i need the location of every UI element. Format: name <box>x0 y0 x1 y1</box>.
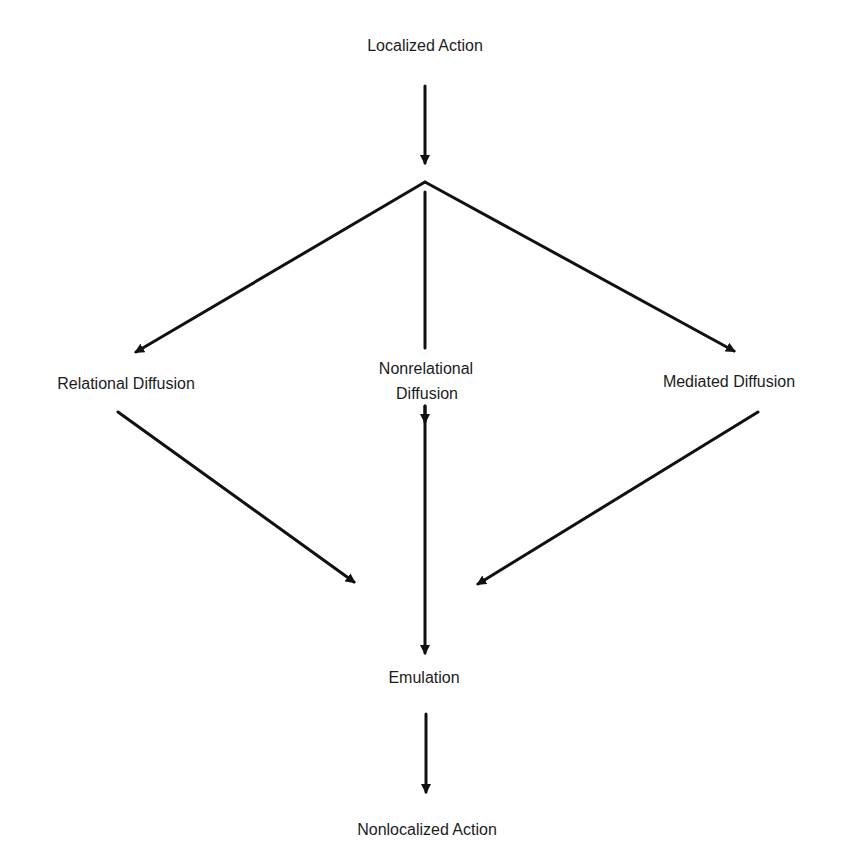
arrow-relational-to-emulation <box>118 412 354 582</box>
node-nonlocalized-action: Nonlocalized Action <box>357 820 497 839</box>
arrows-layer <box>0 0 843 854</box>
arrow-mediated-to-emulation <box>478 412 758 584</box>
node-mediated-diffusion: Mediated Diffusion <box>663 372 795 391</box>
node-emulation: Emulation <box>388 668 459 687</box>
arrow-branch-to-mediated <box>425 182 734 351</box>
node-localized-action: Localized Action <box>367 36 483 55</box>
node-nonrelational-diffusion-line1: Nonrelational <box>379 359 473 378</box>
node-relational-diffusion: Relational Diffusion <box>57 374 195 393</box>
diffusion-flow-diagram: Localized Action Relational Diffusion No… <box>0 0 843 854</box>
node-nonrelational-diffusion-line2: Diffusion <box>396 384 458 403</box>
arrow-branch-to-relational <box>136 182 425 352</box>
